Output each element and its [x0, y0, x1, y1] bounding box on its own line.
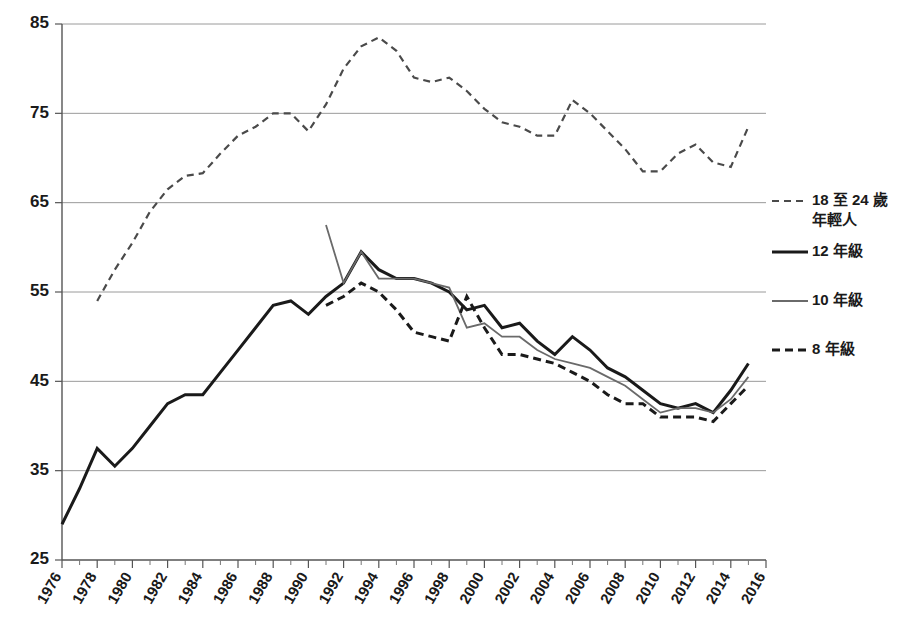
x-tick-label-2014: 2014 — [702, 568, 734, 606]
series-line-1 — [62, 252, 748, 524]
y-tick-label-85: 85 — [30, 13, 49, 32]
x-axis-ticks — [62, 560, 766, 568]
x-tick-label-2006: 2006 — [561, 569, 592, 606]
legend-label-grade-10: 10 年級 — [812, 291, 863, 308]
line-chart-figure: 85756555453525 1976197819801982198419861… — [0, 0, 897, 629]
legend-label-grade-8: 8 年級 — [812, 340, 855, 357]
x-tick-label-2000: 2000 — [456, 569, 487, 606]
y-tick-label-65: 65 — [30, 192, 49, 211]
x-tick-label-1978: 1978 — [68, 569, 99, 606]
y-tick-label-55: 55 — [30, 281, 49, 300]
y-tick-label-25: 25 — [30, 549, 49, 568]
chart-legend: 18 至 24 歲年輕人12 年級10 年級8 年級 — [772, 191, 888, 357]
y-tick-label-35: 35 — [30, 460, 49, 479]
x-tick-label-1990: 1990 — [280, 569, 311, 606]
data-series — [62, 37, 748, 524]
x-tick-label-1988: 1988 — [244, 569, 275, 606]
series-line-2 — [326, 225, 748, 413]
legend-label-18-24-youth-line2: 年輕人 — [812, 211, 858, 228]
x-tick-label-1992: 1992 — [315, 569, 346, 606]
series-line-3 — [326, 283, 748, 421]
x-tick-label-1996: 1996 — [385, 569, 416, 606]
x-tick-label-2002: 2002 — [491, 569, 522, 606]
y-tick-label-45: 45 — [30, 371, 49, 390]
series-line-0 — [97, 37, 748, 301]
x-tick-label-1994: 1994 — [350, 568, 382, 606]
x-tick-label-1984: 1984 — [174, 568, 206, 606]
y-tick-label-75: 75 — [30, 103, 49, 122]
x-tick-label-1976: 1976 — [33, 569, 64, 606]
x-tick-label-1982: 1982 — [139, 569, 170, 606]
x-axis-tick-labels: 1976197819801982198419861988199019921994… — [33, 568, 768, 606]
legend-label-grade-12: 12 年級 — [812, 242, 863, 259]
x-tick-label-2012: 2012 — [667, 569, 698, 606]
x-tick-label-2010: 2010 — [632, 569, 663, 606]
x-tick-label-2008: 2008 — [596, 569, 627, 606]
x-tick-label-1998: 1998 — [420, 569, 451, 606]
chart-canvas: 85756555453525 1976197819801982198419861… — [0, 0, 897, 629]
x-tick-label-2016: 2016 — [737, 569, 768, 606]
x-tick-label-2004: 2004 — [526, 568, 558, 606]
x-tick-label-1986: 1986 — [209, 569, 240, 606]
y-axis-tick-labels: 85756555453525 — [30, 13, 62, 568]
x-tick-label-1980: 1980 — [104, 569, 135, 606]
legend-label-18-24-youth: 18 至 24 歲 — [812, 191, 888, 208]
